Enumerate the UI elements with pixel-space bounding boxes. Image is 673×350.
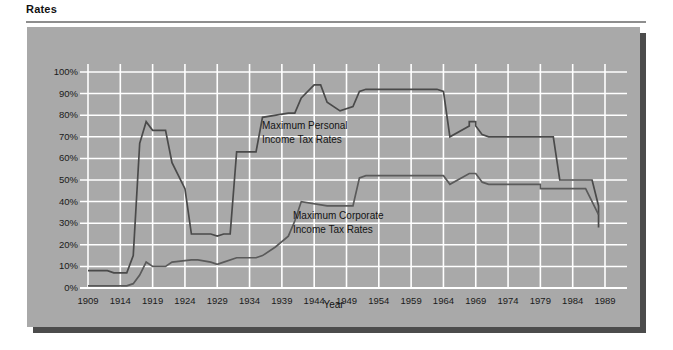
annotation-personal-line1: Maximum Personal (262, 119, 348, 133)
y-axis-tick-label: 10% (34, 261, 78, 271)
y-axis-tick-label: 20% (34, 240, 78, 250)
y-axis-tick-label: 100% (34, 67, 78, 77)
annotation-corporate-line2: Income Tax Rates (293, 223, 384, 237)
annotation-personal-line2: Income Tax Rates (262, 133, 348, 147)
chart-figure: 0%10%20%30%40%50%60%70%80%90%100% 190919… (27, 27, 640, 327)
y-axis-tick-label: 40% (34, 197, 78, 207)
page-title: Rates (26, 3, 57, 15)
chart-plot-area (27, 27, 640, 327)
y-axis-tick-label: 60% (34, 153, 78, 163)
annotation-personal-rates: Maximum Personal Income Tax Rates (262, 119, 348, 147)
y-axis-tick-label: 30% (34, 218, 78, 228)
annotation-corporate-line1: Maximum Corporate (293, 209, 384, 223)
y-axis-tick-label: 70% (34, 132, 78, 142)
y-axis-tick-label: 50% (34, 175, 78, 185)
y-axis-tick-label: 80% (34, 110, 78, 120)
annotation-corporate-rates: Maximum Corporate Income Tax Rates (293, 209, 384, 237)
vertical-gridlines (88, 64, 605, 288)
title-divider (26, 21, 646, 23)
x-axis-title: Year (27, 299, 640, 310)
y-axis-tick-label: 90% (34, 89, 78, 99)
y-axis-tick-label: 0% (34, 283, 78, 293)
